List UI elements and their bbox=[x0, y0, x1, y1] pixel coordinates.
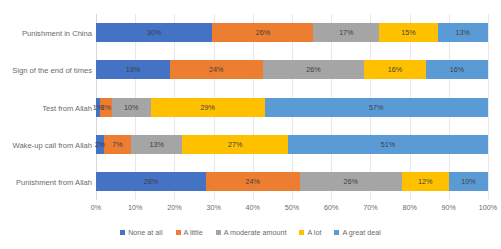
legend-swatch-icon bbox=[176, 230, 181, 235]
bar-row[interactable]: 1%3%10%29%57% bbox=[96, 98, 488, 117]
bar-segment-label: 51% bbox=[381, 140, 395, 149]
legend-swatch-icon bbox=[299, 230, 304, 235]
bar-segment-label: 12% bbox=[418, 177, 432, 186]
gridline bbox=[488, 14, 489, 200]
legend-label: A great deal bbox=[342, 228, 380, 237]
legend-label: A moderate amount bbox=[224, 228, 287, 237]
value-axis-tick-label: 70% bbox=[363, 203, 377, 212]
value-axis-tick-label: 90% bbox=[442, 203, 456, 212]
bar-segment[interactable]: 10% bbox=[112, 98, 151, 117]
bar-segment-label: 7% bbox=[112, 140, 122, 149]
bar-segment[interactable]: 24% bbox=[170, 60, 263, 79]
bar-segment-label: 24% bbox=[209, 65, 223, 74]
legend-swatch-icon bbox=[334, 230, 339, 235]
bar-segment[interactable]: 26% bbox=[300, 172, 402, 191]
bar-segment[interactable]: 15% bbox=[379, 23, 437, 42]
legend-label: A lot bbox=[307, 228, 321, 237]
bar-segment-label: 13% bbox=[456, 28, 470, 37]
bar-segment-label: 13% bbox=[150, 140, 164, 149]
bar-segment-label: 26% bbox=[344, 177, 358, 186]
category-label: Punishment in China bbox=[22, 28, 92, 39]
bar-segment[interactable]: 13% bbox=[131, 135, 182, 154]
legend-item[interactable]: A little bbox=[176, 228, 203, 237]
bar-segment-label: 26% bbox=[306, 65, 320, 74]
bar-segment-label: 19% bbox=[126, 65, 140, 74]
bar-rows: 30%26%17%15%13%19%24%26%16%16%1%3%10%29%… bbox=[96, 14, 488, 200]
stacked-bar-chart: Punishment in ChinaSign of the end of ti… bbox=[0, 0, 501, 249]
bar-row[interactable]: 28%24%26%12%10% bbox=[96, 172, 488, 191]
bar-segment-label: 57% bbox=[369, 103, 383, 112]
value-axis-tick-label: 50% bbox=[285, 203, 299, 212]
bar-row[interactable]: 30%26%17%15%13% bbox=[96, 23, 488, 42]
category-label: Test from Allah bbox=[42, 103, 92, 114]
legend-label: None at all bbox=[128, 228, 162, 237]
value-axis-tick-label: 20% bbox=[167, 203, 181, 212]
bar-segment-label: 24% bbox=[246, 177, 260, 186]
bar-segment[interactable]: 10% bbox=[449, 172, 488, 191]
bar-segment-label: 30% bbox=[147, 28, 161, 37]
bar-segment-label: 16% bbox=[450, 65, 464, 74]
value-axis: 0%10%20%30%40%50%60%70%80%90%100% bbox=[96, 201, 488, 215]
value-axis-tick-label: 10% bbox=[128, 203, 142, 212]
legend-item[interactable]: A moderate amount bbox=[216, 228, 287, 237]
bar-segment[interactable]: 26% bbox=[263, 60, 364, 79]
value-axis-tick-label: 30% bbox=[206, 203, 220, 212]
bar-segment[interactable]: 29% bbox=[151, 98, 265, 117]
bar-segment-label: 2% bbox=[95, 140, 105, 149]
legend-item[interactable]: None at all bbox=[120, 228, 162, 237]
bar-segment[interactable]: 16% bbox=[426, 60, 488, 79]
bar-segment[interactable]: 26% bbox=[212, 23, 313, 42]
legend-item[interactable]: A lot bbox=[299, 228, 321, 237]
value-axis-tick-label: 60% bbox=[324, 203, 338, 212]
bar-segment[interactable]: 3% bbox=[100, 98, 112, 117]
bar-segment-label: 10% bbox=[461, 177, 475, 186]
bar-segment[interactable]: 16% bbox=[364, 60, 426, 79]
plot-area: 30%26%17%15%13%19%24%26%16%16%1%3%10%29%… bbox=[96, 14, 488, 200]
category-label: Wake-up call from Allah bbox=[13, 140, 92, 151]
bar-segment[interactable]: 12% bbox=[402, 172, 449, 191]
bar-segment[interactable]: 57% bbox=[265, 98, 488, 117]
bar-segment[interactable]: 7% bbox=[104, 135, 131, 154]
bar-segment[interactable]: 2% bbox=[96, 135, 104, 154]
bar-segment-label: 29% bbox=[200, 103, 214, 112]
legend-swatch-icon bbox=[216, 230, 221, 235]
category-label: Sign of the end of times bbox=[12, 65, 92, 76]
legend: None at allA littleA moderate amountA lo… bbox=[0, 228, 501, 237]
bar-segment-label: 15% bbox=[401, 28, 415, 37]
bar-row[interactable]: 19%24%26%16%16% bbox=[96, 60, 488, 79]
category-axis: Punishment in ChinaSign of the end of ti… bbox=[0, 14, 94, 200]
bar-segment-label: 27% bbox=[228, 140, 242, 149]
legend-swatch-icon bbox=[120, 230, 125, 235]
bar-segment-label: 3% bbox=[101, 103, 111, 112]
category-label: Punishment from Allah bbox=[16, 177, 92, 188]
bar-segment-label: 10% bbox=[124, 103, 138, 112]
bar-segment[interactable]: 17% bbox=[313, 23, 379, 42]
bar-segment[interactable]: 51% bbox=[288, 135, 488, 154]
bar-segment[interactable]: 13% bbox=[438, 23, 488, 42]
bar-segment[interactable]: 30% bbox=[96, 23, 212, 42]
bar-segment[interactable]: 27% bbox=[182, 135, 288, 154]
bar-segment-label: 26% bbox=[256, 28, 270, 37]
legend-label: A little bbox=[184, 228, 203, 237]
bar-segment[interactable]: 28% bbox=[96, 172, 206, 191]
value-axis-tick-label: 40% bbox=[246, 203, 260, 212]
bar-segment[interactable]: 19% bbox=[96, 60, 170, 79]
bar-segment-label: 16% bbox=[388, 65, 402, 74]
bar-row[interactable]: 2%7%13%27%51% bbox=[96, 135, 488, 154]
bar-segment-label: 28% bbox=[144, 177, 158, 186]
bar-segment-label: 17% bbox=[339, 28, 353, 37]
value-axis-tick-label: 0% bbox=[91, 203, 101, 212]
bar-segment[interactable]: 24% bbox=[206, 172, 300, 191]
value-axis-tick-label: 100% bbox=[479, 203, 497, 212]
legend-item[interactable]: A great deal bbox=[334, 228, 380, 237]
value-axis-tick-label: 80% bbox=[402, 203, 416, 212]
